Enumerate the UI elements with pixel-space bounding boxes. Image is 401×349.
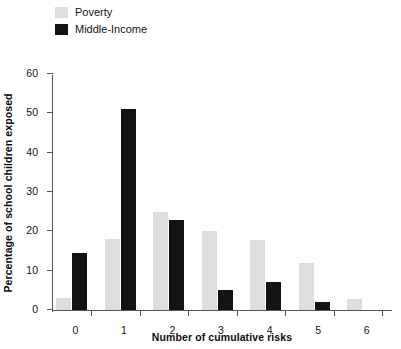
y-axis-tick: 60 xyxy=(47,73,53,74)
y-axis-line xyxy=(52,75,53,312)
bar-poverty-3 xyxy=(202,231,217,310)
x-axis-tick: 5 xyxy=(334,311,335,316)
bar-poverty-4 xyxy=(250,240,265,310)
bar-group xyxy=(250,74,281,310)
y-axis-tick-label: 50 xyxy=(26,106,38,118)
y-axis-tick-label: 0 xyxy=(32,303,38,315)
y-axis-tick: 30 xyxy=(47,191,53,192)
bar-poverty-0 xyxy=(56,298,71,310)
x-axis-tick: 0 xyxy=(91,311,92,316)
legend-item-middle-income: Middle-Income xyxy=(55,21,147,37)
bar-middle-income-0 xyxy=(72,253,87,310)
bar-group xyxy=(202,74,233,310)
y-axis-tick: 10 xyxy=(47,270,53,271)
legend-label-poverty: Poverty xyxy=(75,7,112,18)
y-axis-tick: 50 xyxy=(47,112,53,113)
bar-group xyxy=(347,74,378,310)
x-axis-tick: 3 xyxy=(237,311,238,316)
chart-legend: Poverty Middle-Income xyxy=(55,4,147,38)
y-axis-tick-label: 20 xyxy=(26,224,38,236)
bar-poverty-1 xyxy=(105,239,120,310)
x-axis-tick: 4 xyxy=(285,311,286,316)
y-axis-title-text: Percentage of school children exposed xyxy=(2,93,14,292)
legend-label-middle-income: Middle-Income xyxy=(75,24,147,35)
x-axis-line xyxy=(52,310,392,311)
bar-middle-income-5 xyxy=(315,302,330,310)
bar-middle-income-2 xyxy=(169,220,184,310)
x-axis-tick: 2 xyxy=(188,311,189,316)
y-axis-tick: 0 xyxy=(47,309,53,310)
legend-item-poverty: Poverty xyxy=(55,4,147,20)
poverty-swatch xyxy=(55,7,68,18)
y-axis-tick-label: 30 xyxy=(26,185,38,197)
y-axis-tick: 20 xyxy=(47,230,53,231)
bar-group xyxy=(299,74,330,310)
bar-poverty-5 xyxy=(299,263,314,310)
bar-middle-income-4 xyxy=(266,282,281,310)
y-axis-tick-label: 40 xyxy=(26,146,38,158)
x-axis-title: Number of cumulative risks xyxy=(52,331,392,343)
middle-income-swatch xyxy=(55,24,68,35)
x-axis-tick: 6 xyxy=(382,311,383,316)
bar-poverty-2 xyxy=(153,212,168,310)
bar-group xyxy=(153,74,184,310)
bar-group xyxy=(105,74,136,310)
bar-middle-income-3 xyxy=(218,290,233,310)
y-axis-tick: 40 xyxy=(47,152,53,153)
bar-group xyxy=(56,74,87,310)
bar-middle-income-1 xyxy=(121,109,136,310)
y-axis-tick-label: 60 xyxy=(26,67,38,79)
bar-poverty-6 xyxy=(347,299,362,310)
x-axis-tick: 1 xyxy=(140,311,141,316)
y-axis-tick-label: 10 xyxy=(26,264,38,276)
chart-plot-area: 0102030405060 0123456 xyxy=(52,75,392,311)
y-axis-title: Percentage of school children exposed xyxy=(0,75,16,311)
